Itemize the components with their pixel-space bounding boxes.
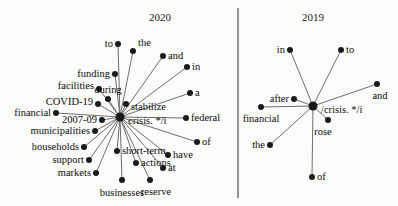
- graph-node-label: in: [192, 62, 200, 73]
- graph-node-label: financial: [243, 114, 280, 125]
- graph-edge: [313, 50, 341, 106]
- graph-edge: [115, 74, 120, 117]
- graph-node-label: of: [317, 172, 326, 183]
- graph-node-label: businesses: [100, 188, 144, 199]
- graph-edge: [96, 117, 120, 173]
- graph-node[interactable]: [267, 142, 273, 148]
- graph-node-label: to: [105, 39, 113, 50]
- graph-node[interactable]: [105, 96, 111, 102]
- graph-node[interactable]: [53, 110, 59, 116]
- graph-node-label: COVID-19: [46, 97, 93, 108]
- hub-node[interactable]: [116, 113, 125, 122]
- hub-node-label: crisis. */i: [128, 115, 167, 126]
- graph-node[interactable]: [95, 101, 101, 107]
- graph-node[interactable]: [119, 177, 125, 183]
- graph-node[interactable]: [81, 144, 87, 150]
- graph-node-label: rose: [314, 127, 332, 138]
- graph-node[interactable]: [325, 117, 331, 123]
- graph-node-label: stabilize: [131, 102, 166, 113]
- graph-node[interactable]: [309, 174, 315, 180]
- graph-node[interactable]: [194, 139, 200, 145]
- graph-node[interactable]: [99, 117, 105, 123]
- graph-node[interactable]: [115, 41, 121, 47]
- figure-container: 2020crisis. */itotheandinafederalofhavea…: [0, 0, 398, 206]
- graph-edge: [312, 106, 313, 177]
- graph-node-label: short-term: [122, 146, 166, 157]
- panel-title-2019: 2019: [302, 11, 324, 23]
- graph-node-label: have: [173, 150, 193, 161]
- graph-node-label: support: [53, 155, 85, 166]
- panel-title-2020: 2020: [149, 11, 171, 23]
- graph-node[interactable]: [114, 148, 120, 154]
- hub-node[interactable]: [309, 102, 318, 111]
- graph-node-label: the: [138, 38, 151, 49]
- graph-node[interactable]: [86, 157, 92, 163]
- graph-node-label: financial: [14, 108, 51, 119]
- graph-node[interactable]: [112, 71, 118, 77]
- graph-node-label: reserve: [141, 187, 171, 198]
- graph-edge: [117, 117, 120, 151]
- graph-node-label: of: [202, 137, 211, 148]
- graph-edge: [261, 106, 313, 107]
- graph-node-label: a: [195, 88, 200, 99]
- graph-node-label: during: [94, 85, 121, 96]
- graph-node[interactable]: [183, 115, 189, 121]
- graph-node[interactable]: [160, 53, 166, 59]
- graph-node-label: after: [270, 94, 289, 105]
- graph-node-label: 2007-09: [62, 115, 97, 126]
- graph-node[interactable]: [92, 128, 98, 134]
- graph-node-label: municipalities: [31, 126, 91, 137]
- graph-node-label: and: [168, 51, 183, 62]
- graph-node[interactable]: [184, 64, 190, 70]
- graph-node[interactable]: [147, 177, 153, 183]
- graph-node[interactable]: [130, 48, 136, 54]
- graph-node-label: funding: [77, 69, 110, 80]
- graph-node-label: the: [252, 140, 265, 151]
- graph-node-label: federal: [191, 113, 220, 124]
- graph-node[interactable]: [93, 170, 99, 176]
- graph-node[interactable]: [258, 104, 264, 110]
- graph-node-label: markets: [58, 168, 91, 179]
- graph-node[interactable]: [287, 47, 293, 53]
- graph-node-label: actions: [141, 158, 171, 169]
- graph-node-label: to: [346, 45, 354, 56]
- graph-node[interactable]: [374, 81, 380, 87]
- graph-node[interactable]: [187, 90, 193, 96]
- graph-node-label: in: [277, 45, 285, 56]
- graph-node[interactable]: [291, 96, 297, 102]
- graph-node-label: and: [372, 91, 387, 102]
- graph-node[interactable]: [123, 101, 129, 107]
- graph-node-label: households: [32, 142, 79, 153]
- graph-node[interactable]: [133, 160, 139, 166]
- graph-edge: [118, 44, 120, 117]
- hub-node-label: /crisis. */i: [321, 104, 362, 115]
- graph-node[interactable]: [338, 47, 344, 53]
- graph-node-label: facilities: [58, 81, 94, 92]
